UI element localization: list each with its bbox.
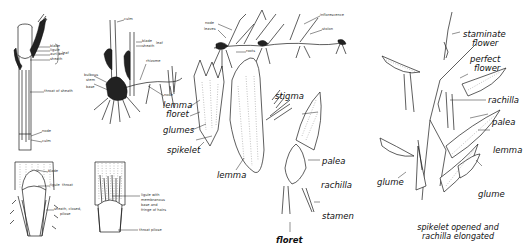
label-glume-right: glume — [478, 190, 505, 199]
label-pilose: pilose — [60, 213, 71, 217]
label-throat-pilose: throat pilose — [139, 229, 162, 233]
label-node: node — [205, 22, 214, 26]
label-rhizome: rhizome — [146, 60, 161, 64]
label-throat-of-sheath: throat of sheath — [44, 90, 73, 94]
label-sheath: sheath — [142, 45, 154, 49]
illustrations — [0, 0, 526, 252]
label-floret: floret — [276, 236, 303, 245]
label-rachilla: rachilla — [321, 181, 352, 190]
label-culm: culm — [124, 18, 133, 22]
label-palea: palea — [322, 157, 345, 166]
label-leaf: leaf — [156, 42, 163, 46]
label-floret-top: floret — [166, 110, 189, 119]
label-perfect-flower: flower — [474, 64, 500, 73]
spikelet-drawing — [188, 58, 321, 232]
label-inflorescence: inflorescence — [320, 14, 344, 18]
label-throat: throat — [62, 184, 73, 188]
label-stem: stem — [86, 79, 95, 83]
hairy-ligule-drawing — [95, 162, 140, 232]
culm-leaf-drawing — [14, 14, 60, 150]
label-leaf: leaf — [62, 52, 69, 56]
label-rachilla: rachilla — [488, 96, 519, 105]
label-stigma: stigma — [275, 92, 304, 101]
label-ligule: ligule — [50, 184, 60, 188]
figure-caption: spikelet opened and rachilla elongated — [398, 224, 518, 242]
label-glumes: glumes — [163, 126, 194, 135]
label-lemma: lemma — [493, 146, 522, 155]
label-node: node — [164, 94, 173, 98]
label-spikelet: spikelet — [167, 146, 200, 155]
label-leaves: leaves — [204, 28, 216, 32]
label-node: node — [42, 130, 51, 134]
label-stolon: stolon — [322, 28, 333, 32]
label-culm: culm — [42, 140, 51, 144]
label-lemma: lemma — [217, 171, 246, 180]
label-roots: roots — [246, 50, 255, 54]
label-sheath: sheath — [50, 58, 62, 62]
label-base: base — [86, 86, 95, 90]
label-fringe-of-hairs: fringe of hairs — [141, 209, 166, 213]
stolon-plant-drawing — [212, 10, 346, 72]
label-blade: blade — [48, 170, 58, 174]
label-stamen: stamen — [322, 212, 354, 221]
grass-anatomy-diagram: blade ligule auricles sheath leaf throat… — [0, 0, 526, 252]
label-palea: palea — [492, 118, 515, 127]
caption-line-2: rachilla elongated — [398, 233, 518, 242]
label-staminate-flower: flower — [472, 39, 498, 48]
label-glume-left: glume — [377, 178, 404, 187]
